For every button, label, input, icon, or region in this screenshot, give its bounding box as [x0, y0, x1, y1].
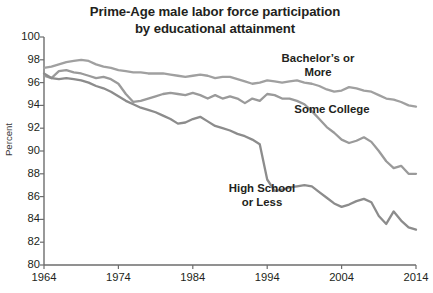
series-line-1: [44, 70, 416, 174]
series-label-high-school: High School or Less: [210, 182, 314, 209]
series-label-some-college: Some College: [280, 103, 384, 117]
series-label-bachelors-line-1: Bachelor’s or: [266, 52, 370, 66]
series-label-some-college-text: Some College: [280, 103, 384, 117]
series-label-bachelors: Bachelor’s or More: [266, 52, 370, 79]
series-label-high-school-line-2: or Less: [210, 196, 314, 210]
series-label-high-school-line-1: High School: [210, 182, 314, 196]
series-label-bachelors-line-2: More: [266, 66, 370, 80]
